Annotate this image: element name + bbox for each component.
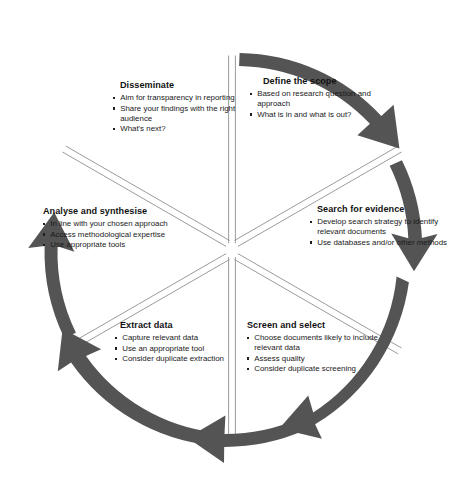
section-search-for-evidence: Search for evidence Develop search strat…	[310, 204, 448, 248]
section-screen-and-select: Screen and select Choose documents likel…	[247, 320, 407, 375]
section-heading: Extract data	[120, 320, 267, 331]
bullet-item: Develop search strategy to identify rele…	[310, 217, 448, 237]
section-bullet-list: Choose documents likely to include relev…	[247, 333, 407, 374]
bullet-item: Consider duplicate extraction	[115, 354, 267, 364]
bullet-item: Use databases and/or other methods	[310, 238, 448, 248]
bullet-item: Aim for transparency in reporting	[113, 93, 258, 103]
section-heading: Screen and select	[247, 320, 407, 331]
section-bullet-list: Develop search strategy to identify rele…	[310, 217, 448, 248]
bullet-item: Access methodological expertise	[43, 230, 191, 240]
section-bullet-list: In line with your chosen approach Access…	[43, 219, 191, 250]
bullet-item: What is in and what is out?	[250, 110, 400, 120]
bullet-item: In line with your chosen approach	[43, 219, 191, 229]
bullet-item: Share your findings with the right audie…	[113, 104, 258, 124]
section-bullet-list: Capture relevant data Use an appropriate…	[115, 333, 267, 364]
section-extract-data: Extract data Capture relevant data Use a…	[115, 320, 267, 365]
section-heading: Analyse and synthesise	[43, 206, 191, 217]
circular-process-diagram: Define the scope Based on research quest…	[0, 0, 464, 488]
bullet-item: Capture relevant data	[115, 333, 267, 343]
section-define-the-scope: Define the scope Based on research quest…	[250, 76, 400, 120]
bullet-item: Based on research question and approach	[250, 89, 400, 109]
section-heading: Define the scope	[263, 76, 400, 87]
bullet-item: Consider duplicate screening	[247, 364, 407, 374]
section-disseminate: Disseminate Aim for transparency in repo…	[113, 80, 258, 135]
section-bullet-list: Aim for transparency in reporting Share …	[113, 93, 258, 134]
bullet-item: What's next?	[113, 124, 258, 134]
bullet-item: Assess quality	[247, 354, 407, 364]
bullet-item: Choose documents likely to include relev…	[247, 333, 407, 353]
bullet-item: Use an appropriate tool	[115, 344, 267, 354]
section-analyse-and-synthesise: Analyse and synthesise In line with your…	[43, 206, 191, 251]
section-heading: Disseminate	[120, 80, 258, 91]
section-bullet-list: Based on research question and approach …	[250, 89, 400, 120]
section-heading: Search for evidence	[317, 204, 448, 215]
bullet-item: Use appropriate tools	[43, 240, 191, 250]
